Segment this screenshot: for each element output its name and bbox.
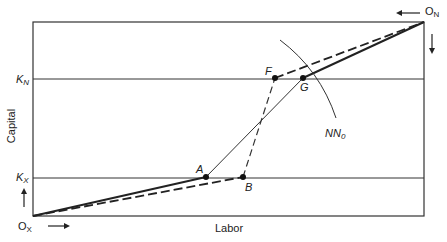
- dashed-upper: [275, 22, 424, 78]
- solid-lower: [33, 177, 206, 216]
- kx-label: KX: [16, 172, 29, 185]
- origin-ox-label: OX: [18, 221, 32, 234]
- point-a: [203, 174, 209, 180]
- point-b: [240, 174, 246, 180]
- origin-on-label: ON: [425, 6, 439, 19]
- point-f: [272, 75, 278, 81]
- point-f-label: F: [265, 66, 272, 77]
- point-g-label: G: [300, 82, 309, 93]
- solid-upper: [303, 22, 424, 78]
- nn0-label: NN0: [325, 128, 345, 141]
- dashed-lower: [33, 177, 243, 216]
- edgeworth-diagram: [0, 0, 447, 242]
- x-axis-label: Labor: [215, 223, 243, 234]
- y-axis-label: Capital: [5, 109, 17, 143]
- thin-ag: [206, 78, 303, 177]
- dashed-bf: [243, 78, 275, 177]
- box-frame: [33, 22, 424, 216]
- point-a-label: A: [196, 164, 203, 175]
- point-b-label: B: [245, 182, 252, 193]
- kn-label: KN: [16, 74, 29, 87]
